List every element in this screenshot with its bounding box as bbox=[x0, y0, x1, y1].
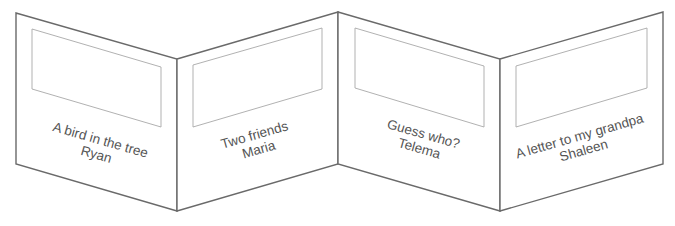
book-panel-3: Guess who? Telema bbox=[338, 12, 500, 211]
panel-outline bbox=[338, 12, 500, 211]
panel-outline bbox=[177, 12, 338, 211]
book-panel-4: A letter to my grandpa Shaleen bbox=[500, 12, 663, 211]
book-panel-1: A bird in the tree Ryan bbox=[16, 13, 177, 211]
panel-outline bbox=[16, 13, 177, 211]
book-panel-2: Two friends Maria bbox=[177, 12, 338, 211]
zigzag-book: A bird in the tree Ryan Two friends Mari… bbox=[0, 0, 675, 226]
